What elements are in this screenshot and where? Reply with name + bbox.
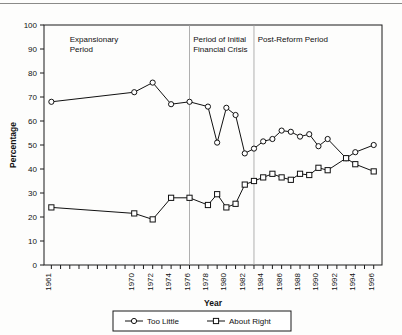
period-annotation-text: Period of Initial xyxy=(193,35,246,44)
legend-marker-square xyxy=(213,318,218,323)
data-point-marker xyxy=(49,205,54,210)
data-point-marker xyxy=(343,156,348,161)
data-point-marker xyxy=(297,171,302,176)
y-axis-ticks: 0102030405060708090100 xyxy=(24,21,44,270)
data-point-marker xyxy=(270,171,275,176)
data-point-marker xyxy=(168,102,173,107)
data-point-marker xyxy=(187,99,192,104)
data-point-marker xyxy=(132,211,137,216)
data-point-marker xyxy=(215,140,220,145)
data-series-group xyxy=(49,80,377,222)
series-polyline xyxy=(51,83,373,159)
data-point-marker xyxy=(307,132,312,137)
data-point-marker xyxy=(316,165,321,170)
chart-figure: 0102030405060708090100 19611970197219741… xyxy=(0,0,402,335)
y-tick-label: 30 xyxy=(28,189,37,198)
period-annotations: ExpansionaryPeriodPeriod of InitialFinan… xyxy=(70,35,328,54)
data-point-marker xyxy=(307,172,312,177)
y-axis-title: Percentage xyxy=(8,122,18,168)
data-point-marker xyxy=(49,99,54,104)
data-point-marker xyxy=(270,136,275,141)
data-point-marker xyxy=(187,195,192,200)
x-tick-label: 1970 xyxy=(127,272,136,290)
series-about-right xyxy=(49,156,377,222)
y-tick-label: 0 xyxy=(33,261,38,270)
data-point-marker xyxy=(205,104,210,109)
plot-frame xyxy=(44,25,382,265)
y-tick-label: 10 xyxy=(28,237,37,246)
data-point-marker xyxy=(371,169,376,174)
x-tick-label: 1984 xyxy=(256,272,265,290)
data-point-marker xyxy=(288,177,293,182)
data-point-marker xyxy=(371,142,376,147)
x-axis-ticks: 1961197019721974197619781980198219841986… xyxy=(44,265,375,291)
x-tick-label: 1972 xyxy=(146,272,155,290)
data-point-marker xyxy=(150,80,155,85)
period-dividers xyxy=(190,25,254,265)
series-too-little xyxy=(49,80,377,161)
data-point-marker xyxy=(150,217,155,222)
y-tick-label: 60 xyxy=(28,117,37,126)
data-point-marker xyxy=(261,139,266,144)
legend-label: About Right xyxy=(229,317,272,326)
data-point-marker xyxy=(242,182,247,187)
data-point-marker xyxy=(297,134,302,139)
period-annotation-text: Post-Reform Period xyxy=(258,35,328,44)
y-tick-label: 80 xyxy=(28,69,37,78)
data-point-marker xyxy=(316,144,321,149)
data-point-marker xyxy=(224,205,229,210)
x-tick-label: 1982 xyxy=(238,272,247,290)
data-point-marker xyxy=(251,146,256,151)
data-point-marker xyxy=(325,136,330,141)
data-point-marker xyxy=(288,129,293,134)
period-annotation-text: Financial Crisis xyxy=(193,45,247,54)
period-annotation-text: Expansionary xyxy=(70,35,118,44)
data-point-marker xyxy=(325,168,330,173)
y-tick-label: 90 xyxy=(28,45,37,54)
data-point-marker xyxy=(279,175,284,180)
x-tick-label: 1996 xyxy=(367,272,376,290)
data-point-marker xyxy=(224,105,229,110)
x-tick-label: 1994 xyxy=(348,272,357,290)
data-point-marker xyxy=(233,201,238,206)
x-tick-label: 1974 xyxy=(164,272,173,290)
data-point-marker xyxy=(353,162,358,167)
data-point-marker xyxy=(215,192,220,197)
line-chart-canvas: 0102030405060708090100 19611970197219741… xyxy=(0,0,402,335)
y-tick-label: 20 xyxy=(28,213,37,222)
x-axis-title: Year xyxy=(204,298,223,308)
x-tick-label: 1978 xyxy=(201,272,210,290)
data-point-marker xyxy=(251,178,256,183)
data-point-marker xyxy=(353,150,358,155)
data-point-marker xyxy=(233,112,238,117)
x-tick-label: 1988 xyxy=(293,272,302,290)
legend-label: Too Little xyxy=(147,317,180,326)
data-point-marker xyxy=(205,202,210,207)
y-tick-label: 100 xyxy=(24,21,38,30)
x-tick-label: 1976 xyxy=(183,272,192,290)
y-tick-label: 70 xyxy=(28,93,37,102)
chart-legend[interactable]: Too LittleAbout Right xyxy=(113,311,291,331)
data-point-marker xyxy=(132,90,137,95)
x-tick-label: 1961 xyxy=(44,272,53,290)
legend-marker-circle xyxy=(131,318,136,323)
y-tick-label: 50 xyxy=(28,141,37,150)
data-point-marker xyxy=(261,175,266,180)
x-tick-label: 1992 xyxy=(330,272,339,290)
x-tick-label: 1986 xyxy=(275,272,284,290)
plot-area-border xyxy=(44,25,382,265)
y-tick-label: 40 xyxy=(28,165,37,174)
x-tick-label: 1990 xyxy=(311,272,320,290)
x-tick-label: 1980 xyxy=(219,272,228,290)
data-point-marker xyxy=(242,151,247,156)
period-annotation-text: Period xyxy=(70,45,93,54)
data-point-marker xyxy=(279,128,284,133)
data-point-marker xyxy=(168,195,173,200)
